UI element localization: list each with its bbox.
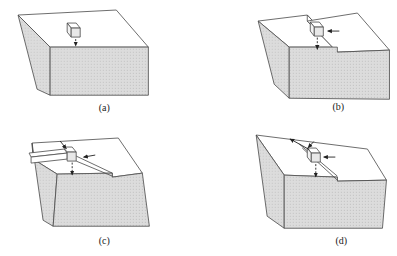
block-front-face: [284, 175, 386, 228]
figure-surface-attachment-sites: (a) (b): [0, 0, 397, 256]
crystal-block: [258, 13, 389, 99]
adatom-cube: [67, 23, 80, 37]
diagram-b: (b): [199, 0, 397, 128]
adatom-cube: [310, 22, 323, 36]
cube-front-face: [67, 152, 76, 161]
block-front-face: [50, 47, 148, 95]
crystal-block: [256, 135, 386, 228]
panel-label: (c): [99, 236, 110, 248]
adatom-cube: [307, 148, 320, 162]
panel-label: (a): [99, 102, 110, 114]
diagram-c: (c): [0, 128, 199, 256]
cube-front-face: [71, 28, 80, 37]
block-front-face: [53, 173, 149, 226]
diagram-a: (a): [0, 0, 199, 128]
cube-front-face: [314, 27, 323, 36]
block-front-face: [289, 47, 389, 99]
crystal-block: [18, 10, 148, 95]
panel-label: (d): [335, 236, 347, 248]
cube-front-face: [311, 153, 320, 162]
panel-label: (b): [332, 101, 344, 113]
diagram-d: (d): [199, 128, 397, 256]
